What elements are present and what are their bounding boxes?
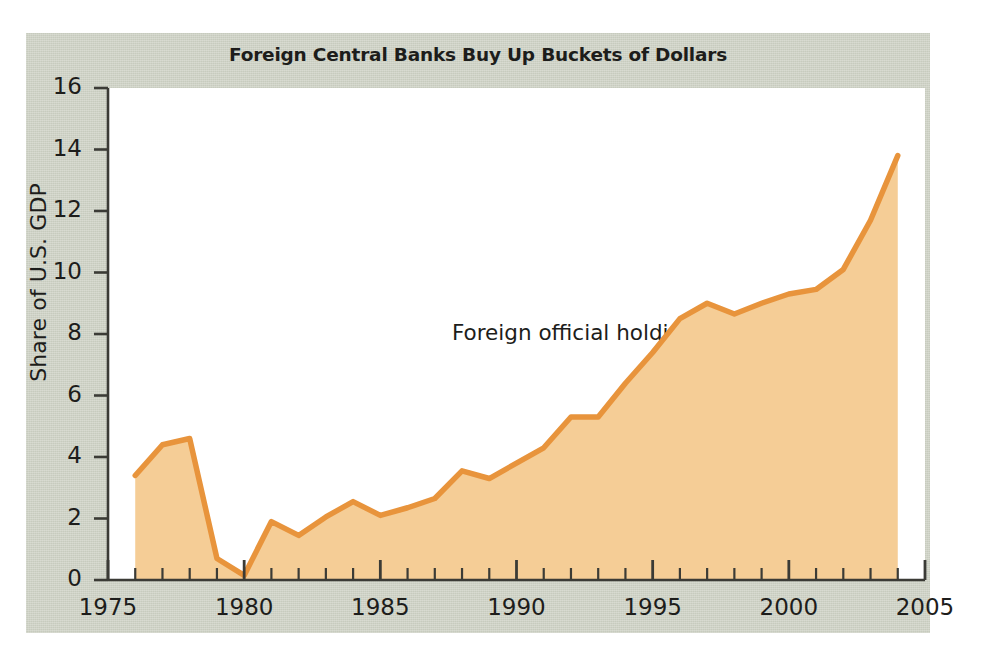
y-axis-tick-label: 8 [36,319,82,345]
y-axis-tick-label: 2 [36,504,82,530]
y-axis-tick-label: 12 [36,196,82,222]
y-axis-ticks [94,88,108,580]
x-axis-tick-label: 1990 [472,594,562,620]
y-axis-tick-label: 14 [36,135,82,161]
x-axis-tick-label: 1975 [63,594,153,620]
x-axis-tick-label: 1985 [335,594,425,620]
x-axis-tick-label: 2005 [880,594,970,620]
x-axis-tick-label: 1995 [608,594,698,620]
area-series [135,156,898,580]
y-axis-tick-label: 16 [36,73,82,99]
y-axis-tick-label: 6 [36,381,82,407]
x-axis-tick-label: 2000 [744,594,834,620]
x-axis-tick-label: 1980 [199,594,289,620]
plot-svg [0,0,993,666]
y-axis-tick-label: 10 [36,258,82,284]
area-fill [135,156,898,580]
chart-figure: Foreign Central Banks Buy Up Buckets of … [0,0,993,666]
y-axis-tick-label: 4 [36,442,82,468]
y-axis-tick-label: 0 [36,565,82,591]
